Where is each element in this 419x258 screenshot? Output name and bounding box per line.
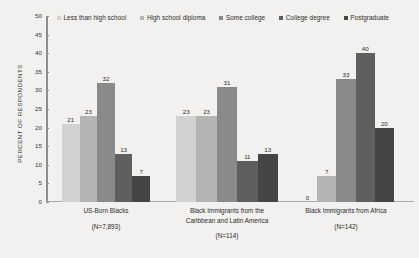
bar-value-label: 13 bbox=[115, 146, 133, 153]
bar[interactable] bbox=[196, 116, 216, 202]
bar-value-label: 23 bbox=[196, 108, 216, 115]
group-sample-size: (N=114) bbox=[158, 231, 296, 241]
bar-value-label: 11 bbox=[237, 153, 257, 160]
bar[interactable] bbox=[217, 87, 237, 202]
bar-value-label: 40 bbox=[356, 45, 375, 52]
y-axis-tick-label: 5 bbox=[22, 180, 42, 186]
group-caption: Black Immigrants from Africa(N=142) bbox=[280, 206, 412, 231]
bar-value-label: 21 bbox=[62, 116, 80, 123]
bar-column[interactable]: 23 bbox=[176, 16, 196, 202]
group-caption: US-Born Blacks(N=7,893) bbox=[44, 206, 168, 231]
bar-column[interactable]: 0 bbox=[298, 16, 317, 202]
bar-value-label: 31 bbox=[217, 79, 237, 86]
bar-column[interactable]: 7 bbox=[132, 16, 150, 202]
bar-column[interactable]: 33 bbox=[336, 16, 355, 202]
bar-group-bars: 2323311113 bbox=[176, 16, 278, 202]
bar-value-label: 23 bbox=[176, 108, 196, 115]
bar[interactable] bbox=[62, 124, 80, 202]
bar-value-label: 7 bbox=[132, 168, 150, 175]
bar-group: 212332137US-Born Blacks(N=7,893) bbox=[62, 16, 150, 202]
bar-value-label: 0 bbox=[298, 194, 317, 201]
group-caption-line: US-Born Blacks bbox=[44, 206, 168, 216]
bar-column[interactable]: 31 bbox=[217, 16, 237, 202]
y-axis-tick-label: 30 bbox=[22, 87, 42, 93]
bar[interactable] bbox=[237, 161, 257, 202]
bar[interactable] bbox=[356, 53, 375, 202]
y-axis-tick-label: 10 bbox=[22, 162, 42, 168]
y-axis-tick-label: 0 bbox=[22, 199, 42, 205]
group-caption: Black Immigrants from theCaribbean and L… bbox=[158, 206, 296, 241]
bar-column[interactable]: 7 bbox=[317, 16, 336, 202]
bar-column[interactable]: 11 bbox=[237, 16, 257, 202]
y-axis-tick-label: 40 bbox=[22, 50, 42, 56]
y-axis-tick-label: 15 bbox=[22, 143, 42, 149]
bar-value-label: 32 bbox=[97, 75, 115, 82]
bar-value-label: 13 bbox=[258, 146, 278, 153]
bar-group: 07334020Black Immigrants from Africa(N=1… bbox=[298, 16, 394, 202]
group-caption-line: Caribbean and Latin America bbox=[158, 216, 296, 226]
bar[interactable] bbox=[317, 176, 336, 202]
y-axis-tick bbox=[46, 202, 49, 203]
bar-column[interactable]: 23 bbox=[196, 16, 216, 202]
bar-group-bars: 212332137 bbox=[62, 16, 150, 202]
bar[interactable] bbox=[258, 154, 278, 202]
bar-group-bars: 07334020 bbox=[298, 16, 394, 202]
bar-column[interactable]: 20 bbox=[375, 16, 394, 202]
bar-column[interactable]: 13 bbox=[115, 16, 133, 202]
bar-value-label: 33 bbox=[336, 71, 355, 78]
bar[interactable] bbox=[375, 128, 394, 202]
y-axis-tick-label: 25 bbox=[22, 106, 42, 112]
bar-chart: Less than high schoolHigh school diploma… bbox=[0, 0, 419, 258]
bar-column[interactable]: 32 bbox=[97, 16, 115, 202]
group-sample-size: (N=7,893) bbox=[44, 222, 168, 232]
bar[interactable] bbox=[336, 79, 355, 202]
group-caption-line: Black Immigrants from the bbox=[158, 206, 296, 216]
bar-value-label: 7 bbox=[317, 168, 336, 175]
bar-value-label: 20 bbox=[375, 120, 394, 127]
bar-column[interactable]: 21 bbox=[62, 16, 80, 202]
bar[interactable] bbox=[80, 116, 98, 202]
bar[interactable] bbox=[176, 116, 196, 202]
bar[interactable] bbox=[132, 176, 150, 202]
bar-column[interactable]: 40 bbox=[356, 16, 375, 202]
bar-column[interactable]: 13 bbox=[258, 16, 278, 202]
y-axis-tick-label: 20 bbox=[22, 125, 42, 131]
bar-group: 2323311113Black Immigrants from theCarib… bbox=[176, 16, 278, 202]
group-sample-size: (N=142) bbox=[280, 222, 412, 232]
bar-column[interactable]: 23 bbox=[80, 16, 98, 202]
plot-area: 212332137US-Born Blacks(N=7,893)23233111… bbox=[48, 16, 414, 202]
y-axis-tick-label: 50 bbox=[22, 13, 42, 19]
y-axis-tick-label: 45 bbox=[22, 32, 42, 38]
bar[interactable] bbox=[115, 154, 133, 202]
y-axis-tick-label: 35 bbox=[22, 69, 42, 75]
bar-value-label: 23 bbox=[80, 108, 98, 115]
group-caption-line: Black Immigrants from Africa bbox=[280, 206, 412, 216]
bar[interactable] bbox=[97, 83, 115, 202]
